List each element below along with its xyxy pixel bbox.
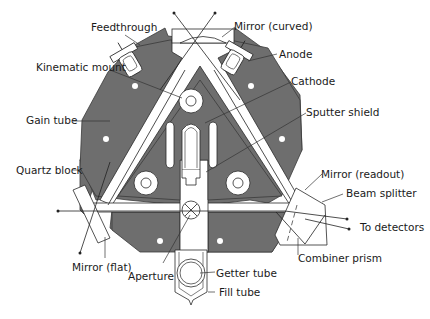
label-quartz-block: Quartz block (16, 164, 83, 176)
label-gain-tube: Gain tube (26, 114, 77, 126)
ring-laser-gyro-diagram: Feedthrough Mirror (curved) Anode Kinema… (0, 0, 430, 319)
label-beam-splitter: Beam splitter (346, 187, 417, 199)
label-anode: Anode (279, 48, 312, 60)
label-combiner-prism: Combiner prism (298, 252, 382, 264)
label-to-detectors: To detectors (359, 221, 424, 233)
label-cathode: Cathode (291, 75, 335, 87)
label-aperture: Aperture (128, 270, 174, 282)
cathode (166, 122, 217, 170)
aperture (182, 201, 200, 219)
label-kinematic-mount: Kinematic mount (36, 61, 126, 73)
label-mirror-flat: Mirror (flat) (72, 261, 132, 273)
label-sputter-shield: Sputter shield (306, 106, 379, 118)
label-fill-tube: Fill tube (219, 286, 260, 298)
mirror-curved (172, 29, 234, 43)
label-mirror-curved: Mirror (curved) (234, 20, 313, 32)
label-feedthrough: Feedthrough (91, 21, 157, 33)
label-mirror-readout: Mirror (readout) (321, 168, 404, 180)
getter-and-fill-tube (175, 250, 207, 305)
label-getter-tube: Getter tube (216, 267, 277, 279)
